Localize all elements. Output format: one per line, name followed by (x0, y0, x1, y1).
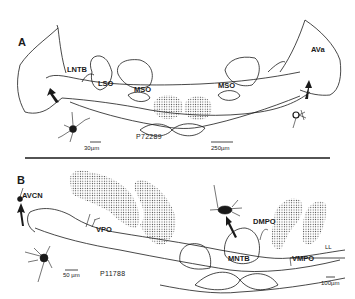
specimen-id-b: P11788 (100, 270, 125, 277)
label-ll: LL (325, 244, 332, 250)
panel-b-stippled-regions (70, 170, 327, 249)
panel-b-label: B (17, 175, 25, 186)
scale-label-a-section: 250µm (211, 145, 229, 151)
label-lso: LSO (98, 80, 113, 88)
label-vmpo: VMPO (292, 255, 314, 263)
panel-a-stippled-regions (153, 95, 212, 120)
panel-a-label: A (18, 37, 26, 48)
arrow-icon (47, 88, 59, 103)
label-mntb: MNTB (228, 255, 250, 263)
arrow-icon (17, 203, 25, 226)
scale-label-a-cell: 30µm (84, 145, 99, 151)
panel-a-section-outline (18, 20, 341, 136)
scale-label-b-cell: 50 µm (63, 272, 80, 278)
label-mso-left: MSO (134, 86, 151, 94)
label-vpo: VPO (96, 226, 112, 234)
neuron-soma-icon (293, 112, 299, 118)
arrow-icon (305, 80, 312, 99)
label-lntb: LNTB (67, 66, 87, 74)
label-mso-right: MSO (218, 82, 235, 90)
label-dmpo: DMPO (253, 218, 276, 226)
arrow-icon (226, 216, 237, 238)
label-avcn: AVCN (22, 192, 43, 200)
scale-label-b-section: 100µm (321, 280, 339, 286)
label-ava: AVa (311, 46, 325, 54)
panel-a-neurons (58, 110, 306, 142)
specimen-id-a: P72289 (136, 133, 162, 140)
neuron-soma-icon (218, 206, 232, 214)
